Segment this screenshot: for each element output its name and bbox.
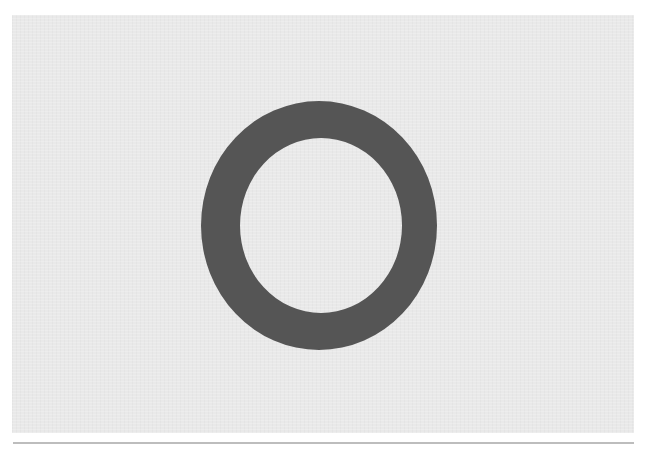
gray-panel: [12, 15, 634, 433]
figure-canvas: [0, 0, 646, 454]
bottom-rule: [13, 442, 634, 444]
